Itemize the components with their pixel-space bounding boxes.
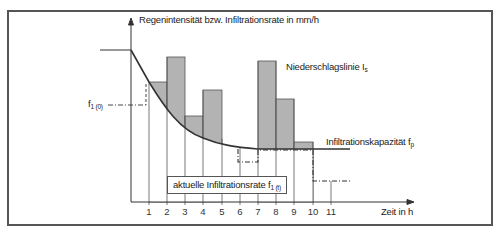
f1-0-label: f1 (0) [88, 98, 103, 110]
x-tick: 11 [324, 206, 338, 217]
y-axis-arrow [129, 18, 134, 25]
y-axis-label: Regenintensität bzw. Infiltrationsrate i… [139, 14, 319, 25]
x-tick: 6 [233, 206, 247, 217]
infiltration-diagram [0, 0, 503, 234]
actual-infiltration-rate-label: aktuelle Infiltrationsrate f1 (t) [167, 176, 287, 194]
x-tick: 3 [178, 206, 192, 217]
x-tick: 10 [306, 206, 320, 217]
x-tick: 4 [196, 206, 210, 217]
x-axis-label: Zeit in h [381, 206, 413, 217]
x-tick: 7 [251, 206, 265, 217]
precipitation-line-label: Niederschlagslinie Is [286, 61, 367, 73]
x-tick: 8 [269, 206, 283, 217]
infiltration-capacity-label: Infiltrationskapazität fp [326, 136, 414, 148]
x-axis-arrow [407, 200, 414, 205]
x-tick: 2 [160, 206, 174, 217]
x-tick: 1 [142, 206, 156, 217]
x-tick: 5 [215, 206, 229, 217]
x-tick: 9 [287, 206, 301, 217]
